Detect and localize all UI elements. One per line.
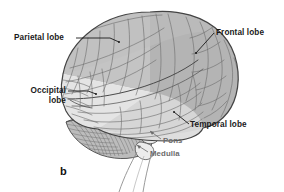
figure-canvas: Parietal lobe Frontal lobe Occipital lob…	[0, 0, 284, 192]
figure-panel-letter: b	[60, 165, 67, 177]
label-medulla: Medulla	[150, 149, 180, 159]
label-parietal-lobe: Parietal lobe	[14, 33, 64, 43]
label-occipital-lobe: Occipital lobe	[18, 86, 66, 105]
leader-dot-temporal	[173, 111, 175, 113]
label-occipital-line1: Occipital	[31, 86, 66, 95]
label-temporal-lobe: Temporal lobe	[190, 120, 247, 130]
spinal-cord-mid	[133, 156, 144, 192]
label-frontal-lobe: Frontal lobe	[216, 28, 264, 38]
leader-dot-frontal	[195, 52, 197, 54]
label-pons: Pons	[163, 136, 182, 146]
spinal-cord-right	[143, 155, 151, 192]
leader-dot-parietal	[118, 41, 120, 43]
label-occipital-line2: lobe	[49, 96, 66, 105]
leader-dot-occipital	[95, 93, 97, 95]
